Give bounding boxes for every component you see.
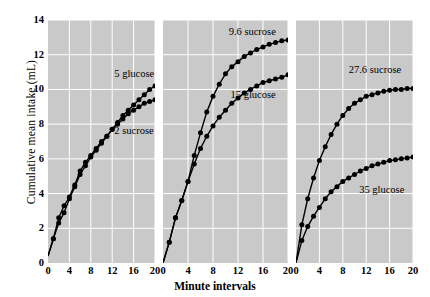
panel-plot-area bbox=[48, 20, 155, 263]
data-point-marker bbox=[78, 169, 83, 174]
series-line bbox=[48, 86, 155, 256]
y-axis-label: Cumulative mean intake (mL) bbox=[25, 7, 37, 257]
chart-panel-3 bbox=[296, 20, 413, 263]
x-tick-label: 0 bbox=[293, 266, 298, 277]
chart-figure: 02468101214 Cumulative mean intake (mL) … bbox=[0, 0, 430, 297]
data-point-marker bbox=[131, 103, 136, 108]
data-point-marker bbox=[153, 97, 156, 102]
data-point-marker bbox=[173, 215, 178, 220]
data-point-marker bbox=[261, 44, 266, 49]
data-point-marker bbox=[229, 101, 234, 106]
data-point-marker bbox=[286, 72, 289, 77]
x-tick-label: 8 bbox=[340, 266, 345, 277]
panel-plot-area bbox=[163, 20, 288, 263]
x-tick-label: 8 bbox=[88, 266, 93, 277]
data-point-marker bbox=[381, 89, 386, 94]
data-point-marker bbox=[299, 222, 304, 227]
data-point-marker bbox=[62, 203, 67, 208]
data-point-marker bbox=[305, 224, 310, 229]
data-point-marker bbox=[340, 179, 345, 184]
data-point-marker bbox=[411, 86, 414, 91]
data-point-marker bbox=[120, 116, 125, 121]
data-point-marker bbox=[104, 134, 109, 139]
x-tick-label: 16 bbox=[384, 266, 395, 277]
data-point-marker bbox=[279, 75, 284, 80]
data-point-marker bbox=[352, 172, 357, 177]
series-line bbox=[163, 75, 288, 263]
data-point-marker bbox=[236, 59, 241, 64]
data-point-marker bbox=[136, 104, 141, 109]
data-point-marker bbox=[334, 122, 339, 127]
data-point-marker bbox=[179, 198, 184, 203]
data-point-marker bbox=[311, 175, 316, 180]
data-point-marker bbox=[267, 42, 272, 47]
x-tick-label: 16 bbox=[258, 266, 269, 277]
data-point-marker bbox=[88, 153, 93, 158]
data-point-marker bbox=[346, 175, 351, 180]
data-point-marker bbox=[167, 240, 172, 245]
data-point-marker bbox=[198, 146, 203, 151]
data-point-marker bbox=[56, 215, 61, 220]
data-point-marker bbox=[267, 78, 272, 83]
data-point-marker bbox=[94, 146, 99, 151]
x-tick-label: 4 bbox=[317, 266, 322, 277]
data-point-marker bbox=[311, 214, 316, 219]
data-point-marker bbox=[51, 236, 56, 241]
data-point-marker bbox=[126, 111, 131, 116]
series-annotation: 35 glucose bbox=[359, 184, 404, 195]
data-point-marker bbox=[364, 94, 369, 99]
data-point-marker bbox=[358, 169, 363, 174]
data-point-marker bbox=[399, 87, 404, 92]
x-tick-label: 4 bbox=[67, 266, 72, 277]
series-line bbox=[48, 100, 155, 256]
data-point-marker bbox=[142, 92, 147, 97]
data-point-marker bbox=[358, 97, 363, 102]
data-point-marker bbox=[364, 166, 369, 171]
data-point-marker bbox=[352, 101, 357, 106]
data-point-marker bbox=[273, 40, 278, 45]
data-point-marker bbox=[142, 101, 147, 106]
chart-panel-1 bbox=[48, 20, 155, 263]
data-point-marker bbox=[323, 144, 328, 149]
data-point-marker bbox=[242, 54, 247, 59]
series-annotation: 5 glucose bbox=[114, 68, 154, 79]
data-point-marker bbox=[72, 182, 77, 187]
data-point-marker bbox=[211, 123, 216, 128]
data-point-marker bbox=[248, 50, 253, 55]
data-point-marker bbox=[254, 47, 259, 52]
data-point-marker bbox=[340, 113, 345, 118]
data-point-marker bbox=[370, 163, 375, 168]
data-point-marker bbox=[198, 130, 203, 135]
data-point-marker bbox=[329, 132, 334, 137]
data-point-marker bbox=[217, 115, 222, 120]
data-point-marker bbox=[192, 153, 197, 158]
data-point-marker bbox=[317, 205, 322, 210]
data-point-marker bbox=[223, 71, 228, 76]
data-point-marker bbox=[387, 88, 392, 93]
data-point-marker bbox=[217, 82, 222, 87]
x-tick-label: 12 bbox=[361, 266, 372, 277]
series-annotation: 27.6 sucrose bbox=[349, 64, 402, 75]
data-point-marker bbox=[286, 37, 289, 42]
data-point-marker bbox=[323, 196, 328, 201]
data-point-marker bbox=[305, 196, 310, 201]
x-tick-label: 20 bbox=[283, 266, 294, 277]
data-point-marker bbox=[147, 87, 152, 92]
chart-panel-2 bbox=[163, 20, 288, 263]
x-tick-label: 12 bbox=[233, 266, 244, 277]
data-point-marker bbox=[375, 90, 380, 95]
x-axis-label: Minute intervals bbox=[0, 280, 430, 292]
data-point-marker bbox=[405, 86, 410, 91]
series-annotation: 2 sucrose bbox=[114, 125, 153, 136]
data-point-marker bbox=[211, 94, 216, 99]
x-tick-label: 20 bbox=[150, 266, 161, 277]
data-point-marker bbox=[204, 109, 209, 114]
data-point-marker bbox=[83, 160, 88, 165]
data-point-marker bbox=[317, 158, 322, 163]
data-point-marker bbox=[147, 99, 152, 104]
series-annotation: 9.6 sucrose bbox=[229, 26, 276, 37]
data-point-marker bbox=[136, 97, 141, 102]
data-point-marker bbox=[279, 38, 284, 43]
data-point-marker bbox=[387, 158, 392, 163]
data-point-marker bbox=[131, 108, 136, 113]
